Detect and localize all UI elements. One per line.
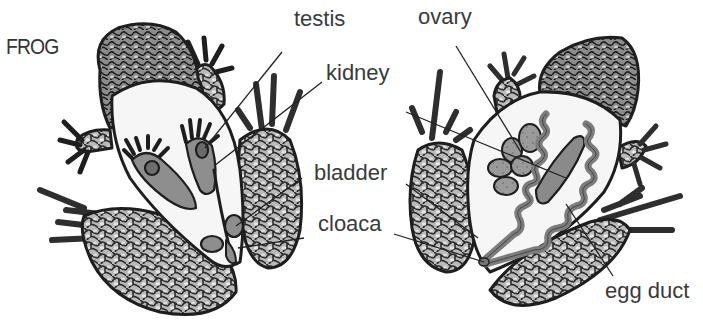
frog-reproductive-diagram: FROG testis kidney bladder cloaca ovary … <box>0 0 703 329</box>
label-kidney: kidney <box>326 62 390 84</box>
bladder-organ <box>225 215 243 237</box>
male-front-left-leg <box>60 122 112 172</box>
label-bladder: bladder <box>314 162 387 184</box>
label-ovary: ovary <box>418 6 472 28</box>
diagram-title: FROG <box>6 34 58 60</box>
male-cloaca-sac <box>201 236 223 252</box>
female-frog <box>410 37 680 305</box>
label-testis: testis <box>294 8 345 30</box>
label-egg-duct: egg duct <box>605 280 689 302</box>
testis-organ <box>196 142 208 158</box>
female-front-right-leg <box>618 126 666 184</box>
label-cloaca: cloaca <box>318 213 382 235</box>
male-frog <box>40 24 302 315</box>
